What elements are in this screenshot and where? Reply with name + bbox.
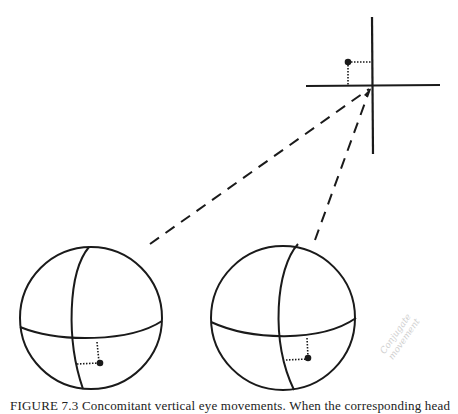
- sightlines: [150, 89, 370, 244]
- right-eye-pupil-dot: [305, 355, 312, 362]
- right-eye-sightline: [315, 89, 370, 240]
- figure-caption: FIGURE 7.3 Concomitant vertical eye move…: [10, 398, 458, 414]
- left-eye-pupil-dot: [97, 360, 104, 367]
- right-eye-outline: [211, 246, 355, 390]
- left-eye-outline: [20, 247, 162, 389]
- target-offset-guides: [348, 62, 371, 85]
- left-eye: [20, 247, 162, 389]
- right-eye-meridian: [279, 244, 298, 390]
- left-eye-meridian: [72, 247, 89, 389]
- horizontal-axis: [306, 85, 440, 86]
- left-eye-sightline: [150, 89, 369, 244]
- left-eye-offset-guides: [77, 342, 99, 364]
- right-eye-equator: [211, 318, 356, 336]
- right-eye: [211, 244, 356, 390]
- left-eye-equator: [20, 321, 162, 338]
- target-dot: [345, 59, 352, 66]
- target-crosshair: [306, 17, 440, 154]
- right-eye-offset-guides: [286, 338, 308, 360]
